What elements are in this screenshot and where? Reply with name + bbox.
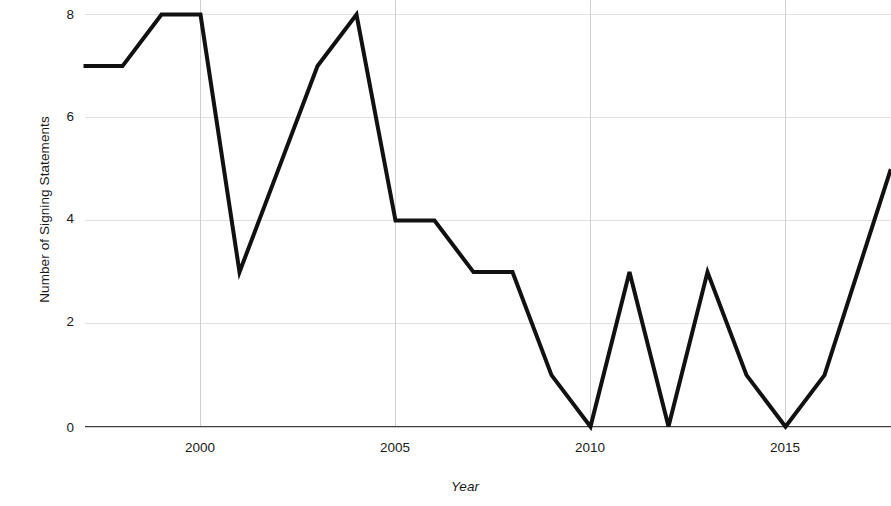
plot-area xyxy=(0,0,891,506)
line-chart: Number of Signing Statements 8 6 4 2 0 2… xyxy=(0,0,891,506)
vertical-gridlines xyxy=(201,0,786,427)
